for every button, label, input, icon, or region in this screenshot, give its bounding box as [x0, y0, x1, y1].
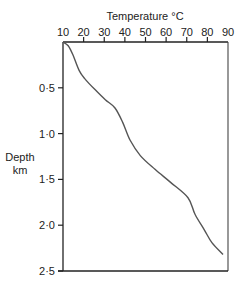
y-axis-title-unit: km — [13, 164, 28, 176]
x-tick-label: 90 — [222, 26, 234, 38]
y-axis-title-depth: Depth — [5, 151, 34, 163]
x-tick-label: 70 — [181, 26, 193, 38]
chart: 102030405060708090 0·51·01·52·02·5 Tempe… — [0, 0, 242, 281]
y-tick-label: 0·5 — [39, 82, 55, 94]
x-tick-label: 50 — [139, 26, 151, 38]
y-tick-label: 1·5 — [39, 173, 55, 185]
x-axis-title: Temperature °C — [106, 10, 183, 22]
y-ticks: 0·51·01·52·02·5 — [39, 82, 63, 277]
x-ticks: 102030405060708090 — [57, 26, 234, 42]
y-tick-label: 2·5 — [39, 265, 55, 277]
x-tick-label: 60 — [160, 26, 172, 38]
x-tick-label: 20 — [78, 26, 90, 38]
y-tick-label: 1·0 — [39, 128, 55, 140]
temperature-depth-curve — [63, 42, 223, 255]
x-tick-label: 40 — [119, 26, 131, 38]
y-tick-label: 2·0 — [39, 219, 55, 231]
x-tick-label: 10 — [57, 26, 69, 38]
x-tick-label: 30 — [98, 26, 110, 38]
x-tick-label: 80 — [201, 26, 213, 38]
